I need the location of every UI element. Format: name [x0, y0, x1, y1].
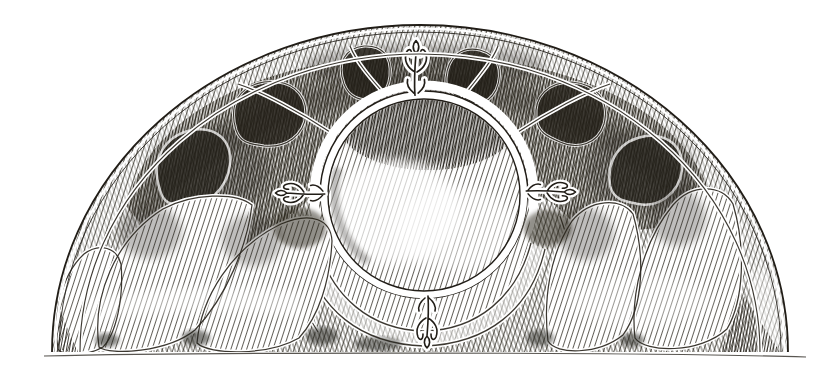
scallop-shade — [650, 190, 706, 246]
scallop-shade — [118, 206, 182, 258]
junction-shadow — [354, 337, 402, 351]
junction-shadow — [620, 333, 644, 347]
right-tuft-shadow — [524, 210, 572, 246]
right-tuft-ornament — [526, 182, 575, 201]
scallop-shade — [222, 214, 282, 266]
junction-shadow — [95, 333, 119, 347]
left-tuft-ornament — [275, 183, 324, 202]
bottom-tuft-ornament — [417, 296, 437, 348]
junction-shadow — [182, 330, 210, 346]
engraving-canvas — [0, 0, 830, 386]
engraving-figure — [0, 0, 830, 386]
left-tuft-shadow — [274, 208, 326, 248]
top-tuft-ornament — [405, 41, 426, 96]
junction-shadow — [526, 330, 554, 346]
junction-shadow — [306, 327, 338, 345]
